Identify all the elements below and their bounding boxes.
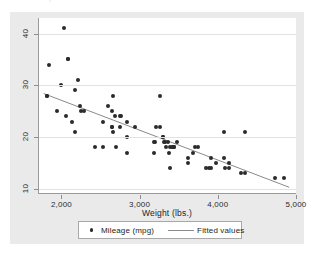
data-point — [118, 125, 122, 129]
y-tick-mark — [34, 189, 38, 190]
data-point — [125, 120, 129, 124]
data-point — [125, 151, 129, 155]
y-tick-label: 30 — [21, 78, 30, 92]
y-tick-label: 20 — [21, 130, 30, 144]
data-point — [243, 171, 247, 175]
data-point — [47, 63, 51, 67]
x-tick-mark — [61, 195, 62, 199]
legend-entry-fitted: Fitted values — [154, 226, 244, 235]
plot-area — [38, 18, 296, 194]
legend-label-mileage: Mileage (mpg) — [101, 226, 154, 235]
data-point — [106, 104, 110, 108]
clipped-text: nmr qmr tmr ntr nor — [32, 0, 96, 1]
gridline — [39, 137, 296, 138]
data-point — [70, 120, 74, 124]
data-point — [214, 161, 218, 165]
line-segment-icon — [168, 230, 194, 231]
clipped-text-strip: nmr qmr tmr ntr nor — [0, 0, 314, 9]
y-tick-mark — [34, 34, 38, 35]
y-tick-mark — [34, 137, 38, 138]
data-point — [133, 125, 137, 129]
gridline — [39, 85, 296, 86]
data-point — [186, 161, 190, 165]
y-tick-mark — [34, 85, 38, 86]
data-point — [152, 151, 156, 155]
data-point — [227, 161, 231, 165]
data-point — [191, 151, 195, 155]
x-axis-title: Weight (lbs.) — [38, 208, 296, 218]
data-point — [222, 156, 226, 160]
filled-circle-icon — [85, 228, 98, 232]
data-point — [158, 125, 162, 129]
data-point — [209, 156, 213, 160]
gridline — [39, 34, 296, 35]
x-tick-mark — [140, 195, 141, 199]
x-tick-mark — [296, 195, 297, 199]
y-tick-label: 40 — [21, 26, 30, 40]
data-point — [101, 120, 105, 124]
data-point — [111, 94, 115, 98]
legend-entry-mileage: Mileage (mpg) — [79, 226, 154, 235]
data-point — [222, 130, 226, 134]
data-point — [45, 94, 49, 98]
x-tick-mark — [218, 195, 219, 199]
graph-region: 10203040 2,0003,0004,0005,000 Weight (lb… — [10, 12, 304, 244]
legend: Mileage (mpg) Fitted values — [78, 221, 242, 239]
data-point — [186, 156, 190, 160]
legend-label-fitted: Fitted values — [197, 226, 244, 235]
data-point — [158, 94, 162, 98]
data-point — [73, 130, 77, 134]
gridline — [39, 189, 296, 190]
data-point — [243, 130, 247, 134]
y-tick-label: 10 — [21, 181, 30, 195]
data-point — [167, 151, 171, 155]
